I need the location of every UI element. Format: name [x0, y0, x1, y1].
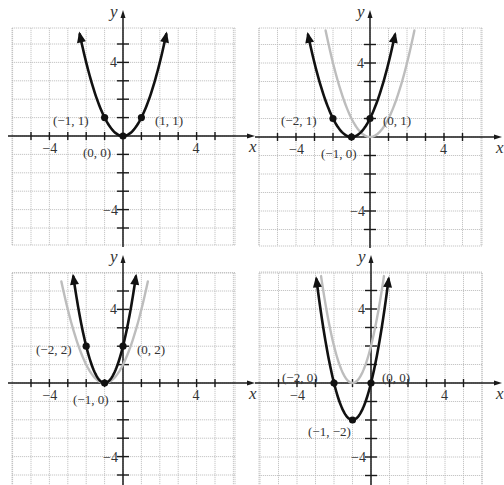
curve-arrow-icon	[77, 31, 86, 43]
point-label: (−2, 0)	[282, 370, 318, 385]
panel-bottom-left: xy−444−4(−2, 2)(0, 2)(−1, 0)	[8, 247, 257, 485]
curve-arrow-icon	[389, 32, 398, 44]
x-tick-label-neg4: −4	[290, 388, 305, 403]
point-label: (−1, 0)	[73, 392, 109, 407]
point-label: (0, 2)	[137, 342, 165, 357]
point-label: (0, 0)	[382, 370, 410, 385]
data-point	[83, 343, 90, 350]
x-axis-label: x	[495, 384, 504, 403]
data-point	[119, 343, 126, 350]
point-label: (1, 1)	[155, 113, 183, 128]
x-tick-label-neg4: −4	[42, 388, 57, 403]
y-tick-label-4: 4	[357, 56, 364, 71]
y-axis-arrow-icon	[368, 10, 373, 18]
panel-bottom-right: xy−444−4(−2, 0)(0, 0)(−1, −2)	[255, 247, 504, 485]
y-axis-label: y	[356, 247, 366, 266]
x-tick-label-4: 4	[440, 142, 447, 157]
x-tick-label-4: 4	[441, 388, 448, 403]
data-point	[366, 115, 373, 122]
data-point	[348, 133, 355, 140]
point-label: (−1, 1)	[53, 113, 89, 128]
data-point	[138, 114, 145, 121]
curve-arrow-icon	[70, 274, 79, 286]
data-point	[330, 379, 337, 386]
y-axis-arrow-icon	[121, 255, 126, 263]
data-point	[119, 132, 126, 139]
data-point	[367, 379, 374, 386]
data-point	[101, 114, 108, 121]
point-label: (0, 0)	[83, 145, 111, 160]
curve-arrow-icon	[160, 31, 169, 43]
y-axis-label: y	[355, 2, 365, 21]
data-point	[101, 379, 108, 386]
y-tick-label-neg4: −4	[103, 450, 118, 465]
y-axis-arrow-icon	[121, 10, 126, 18]
axes: xy−444−4	[255, 247, 504, 485]
y-tick-label-4: 4	[358, 302, 365, 317]
x-tick-label-neg4: −4	[42, 141, 57, 156]
point-label: (−1, 0)	[321, 146, 357, 161]
curve-arrow-icon	[130, 274, 139, 286]
panel-top-left: xy−444−4(−1, 1)(1, 1)(0, 0)	[8, 2, 257, 247]
panel-top-right: xy−444−4(−2, 1)(0, 1)(−1, 0)	[255, 2, 504, 248]
y-axis-label: y	[108, 2, 118, 21]
y-tick-label-4: 4	[110, 55, 117, 70]
x-axis-label: x	[248, 137, 257, 156]
point-label: (−2, 1)	[281, 113, 317, 128]
x-tick-label-4: 4	[193, 388, 200, 403]
x-axis-label: x	[248, 384, 257, 403]
x-tick-label-neg4: −4	[289, 142, 304, 157]
y-tick-label-neg4: −4	[351, 450, 366, 465]
point-label: (0, 1)	[383, 113, 411, 128]
x-tick-label-4: 4	[193, 141, 200, 156]
data-point	[349, 416, 356, 423]
axes: xy−444−4	[8, 2, 257, 247]
curve-arrow-icon	[305, 32, 314, 44]
y-tick-label-4: 4	[110, 302, 117, 317]
y-axis-label: y	[108, 247, 118, 266]
x-axis-label: x	[495, 138, 504, 157]
data-point	[329, 115, 336, 122]
point-label: (−2, 2)	[36, 342, 72, 357]
y-axis-arrow-icon	[369, 255, 374, 263]
y-tick-label-neg4: −4	[350, 204, 365, 219]
point-label: (−1, −2)	[308, 424, 351, 439]
parabola-transformations-figure: xy−444−4(−1, 1)(1, 1)(0, 0) xy−444−4(−2,…	[0, 0, 504, 485]
y-tick-label-neg4: −4	[103, 203, 118, 218]
